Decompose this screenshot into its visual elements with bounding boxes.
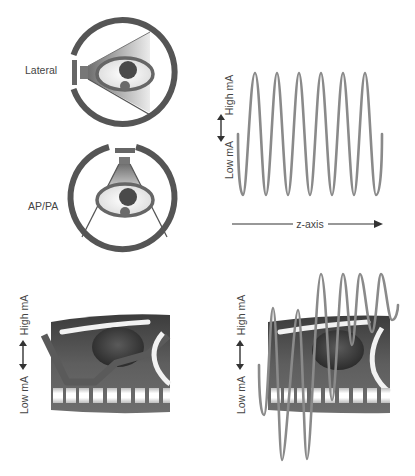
high-ma-label: High mA [235, 295, 247, 335]
xray-tube-icon [115, 148, 135, 153]
lateral-panel: Lateral [25, 20, 175, 124]
low-ma-label: Low mA [223, 141, 235, 179]
high-ma-label: High mA [223, 75, 235, 115]
body-lateral-panel: Low mA High mA [18, 295, 170, 414]
constant-wave-panel: Low mA High mA z-axis [217, 73, 383, 230]
ct-tube-current-modulation-diagram: Lateral AP/PA Low mA High mA [0, 0, 415, 476]
body-modulated-panel: Low mA High mA [235, 274, 398, 460]
appa-panel: AP/PA [28, 147, 175, 249]
low-ma-label: Low mA [18, 376, 30, 414]
patient-body-icon [44, 314, 170, 413]
tube-current-wave [238, 73, 382, 195]
appa-label: AP/PA [28, 200, 58, 212]
spine-vertebrae [53, 388, 170, 403]
double-arrow-icon [236, 340, 244, 370]
high-ma-label: High mA [18, 295, 30, 335]
lateral-label: Lateral [25, 64, 57, 76]
double-arrow-icon [19, 340, 27, 370]
xray-tube-icon [72, 60, 77, 85]
z-axis-label: z-axis [296, 218, 323, 230]
double-arrow-icon [217, 114, 225, 142]
low-ma-label: Low mA [235, 376, 247, 414]
